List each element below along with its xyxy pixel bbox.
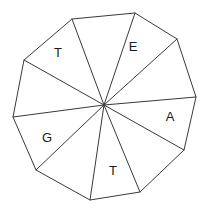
decagon-figure: TEATG — [0, 0, 208, 211]
sector-label-t-3: T — [109, 163, 117, 178]
decagon-diagram: TEATG — [0, 0, 208, 211]
sector-label-t-0: T — [54, 45, 62, 60]
sector-label-a-2: A — [166, 109, 175, 124]
sector-label-g-4: G — [42, 130, 52, 145]
sector-label-e-1: E — [129, 39, 138, 54]
